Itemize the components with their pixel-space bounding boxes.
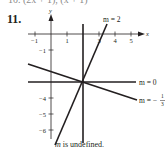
svg-text:3: 3 (161, 101, 164, 107)
x-tick-label: 5 (130, 37, 133, 44)
y-axis (49, 14, 54, 139)
y-tick-label: −1 (39, 47, 46, 54)
x-tick-label: 4 (114, 37, 118, 44)
label-slope-neg-third: m = − 1 3 (139, 93, 165, 107)
line-slope-two (55, 24, 107, 145)
y-axis-arrow-icon (49, 14, 54, 21)
y-tick-label: −6 (39, 127, 47, 134)
x-tick-label: −1 (31, 37, 38, 44)
x-axis-arrow-icon (138, 32, 145, 37)
svg-text:1: 1 (161, 93, 164, 99)
y-tick-label: −4 (39, 95, 47, 102)
x-tick-label: 1 (66, 37, 69, 44)
label-slope-undefined: m is undefined. (55, 140, 104, 149)
y-axis-label: y (48, 7, 52, 14)
graph: x y −1 1 3 4 5 −1 −4 −5 −6 m = 2 m = 0 m… (0, 0, 168, 150)
x-axis-label: x (145, 30, 149, 37)
svg-text:m = −: m = − (139, 96, 157, 105)
y-tick-label: −5 (39, 111, 46, 118)
label-slope-zero: m = 0 (139, 78, 157, 87)
label-slope-two: m = 2 (103, 15, 121, 24)
x-axis (28, 32, 145, 37)
